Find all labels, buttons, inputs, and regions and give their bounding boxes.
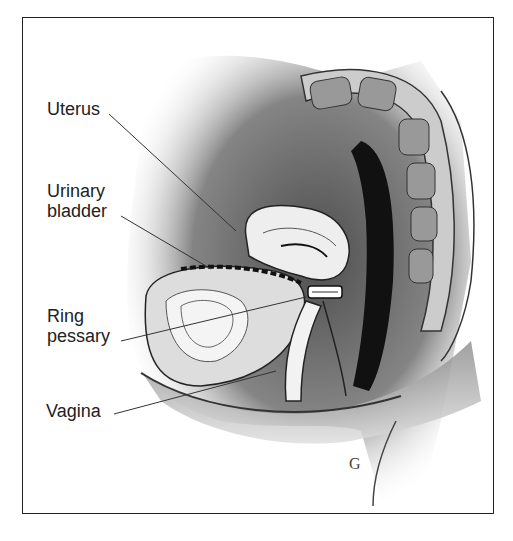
pelvis-illustration: G — [23, 18, 494, 514]
label-urinary-bladder-line2: bladder — [47, 201, 107, 221]
label-ring-pessary-line2: pessary — [47, 326, 110, 346]
ring-pessary-device — [308, 286, 342, 298]
artist-signature: G — [349, 455, 361, 472]
label-vagina: Vagina — [46, 401, 101, 421]
label-urinary-bladder-line1: Urinary — [47, 181, 105, 201]
illustration-frame: G — [22, 17, 494, 514]
label-ring-pessary-line1: Ring — [47, 306, 84, 326]
label-uterus: Uterus — [47, 99, 100, 119]
